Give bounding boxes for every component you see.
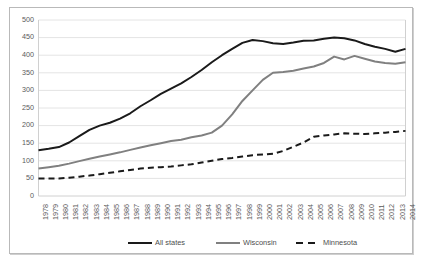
x-axis-tick-label: 1985 (113, 204, 121, 220)
x-axis-tick-label: 1986 (123, 204, 131, 220)
x-axis-tick-label: 1981 (72, 204, 80, 220)
y-axis-tick-label: 50 (8, 174, 34, 182)
x-axis-tick-label: 1999 (256, 204, 264, 220)
y-axis-tick-label: 150 (8, 139, 34, 147)
x-axis-tick-label: 1993 (195, 204, 203, 220)
y-axis-tick-label: 350 (8, 69, 34, 77)
y-axis-tick-label: 0 (8, 192, 34, 200)
x-axis-tick-label: 1987 (133, 204, 141, 220)
legend-item-minnesota[interactable]: Minnesota (296, 238, 357, 247)
x-axis-tick-label: 2006 (327, 204, 335, 220)
x-axis-tick-label: 2002 (286, 204, 294, 220)
x-axis-tick-label: 1989 (154, 204, 162, 220)
legend-swatch-wisconsin (216, 239, 240, 247)
x-axis-tick-label: 2011 (378, 205, 386, 220)
x-axis-tick-label: 1994 (205, 204, 213, 220)
x-axis-tick-label: 1990 (164, 204, 172, 220)
legend-item-wisconsin[interactable]: Wisconsin (216, 238, 277, 247)
x-axis-tick-label: 1978 (42, 204, 50, 220)
legend-swatch-all-states (128, 239, 152, 247)
legend-label: All states (155, 238, 185, 247)
line-chart: 050100150200250300350400450500 197819791… (0, 0, 428, 265)
x-axis-tick-label: 1997 (235, 204, 243, 220)
series-line-minnesota (39, 131, 406, 179)
x-axis-tick-label: 2004 (307, 204, 315, 220)
x-axis-tick-label: 2000 (266, 204, 274, 220)
x-axis-tick-label: 2014 (409, 204, 417, 220)
x-axis-tick-label: 1984 (103, 204, 111, 220)
x-axis-tick-label: 1998 (246, 204, 254, 220)
x-axis-tick-label: 2009 (358, 204, 366, 220)
legend-swatch-minnesota (296, 239, 320, 247)
series-line-all-states (39, 38, 406, 151)
x-axis-tick-label: 1991 (174, 204, 182, 220)
legend-label: Minnesota (323, 238, 357, 247)
y-axis-tick-label: 500 (8, 16, 34, 24)
y-axis-tick-label: 100 (8, 157, 34, 165)
y-axis-tick-label: 450 (8, 33, 34, 41)
x-axis-tick-label: 2007 (337, 204, 345, 220)
x-axis-tick-label: 2003 (297, 204, 305, 220)
y-axis-tick-label: 200 (8, 121, 34, 129)
x-axis-tick-label: 1979 (52, 204, 60, 220)
x-axis-tick-label: 1988 (144, 204, 152, 220)
y-axis-tick-label: 300 (8, 86, 34, 94)
x-axis-tick-label: 2013 (399, 204, 407, 220)
x-axis-tick-label: 2010 (368, 204, 376, 220)
legend-item-all-states[interactable]: All states (128, 238, 185, 247)
gridlines (39, 20, 406, 196)
y-axis-tick-label: 400 (8, 51, 34, 59)
x-axis-tick-label: 2012 (388, 204, 396, 220)
x-axis-tick-label: 1983 (93, 204, 101, 220)
x-axis-tick-label: 1995 (215, 204, 223, 220)
x-axis-tick-label: 1980 (62, 204, 70, 220)
x-axis-tick-label: 2008 (348, 204, 356, 220)
chart-plot-area (0, 0, 428, 265)
y-axis-tick-label: 250 (8, 104, 34, 112)
legend-label: Wisconsin (243, 238, 277, 247)
x-axis-tick-label: 1982 (82, 204, 90, 220)
x-axis-tick-label: 1992 (184, 204, 192, 220)
x-axis-tick-label: 2001 (276, 204, 284, 220)
x-axis-tick-label: 2005 (317, 204, 325, 220)
x-axis-tick-label: 1996 (225, 204, 233, 220)
